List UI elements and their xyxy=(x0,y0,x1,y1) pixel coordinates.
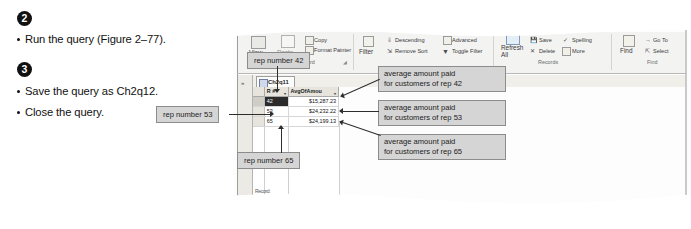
datasheet-grid[interactable]: R # ▾ AvgOfAmou ▾ 42 $15,287.23 xyxy=(253,87,339,127)
filter-button-label[interactable]: Filter xyxy=(359,48,373,55)
arrow-avg-53 xyxy=(339,108,343,114)
clipboard-dialog-launcher-icon[interactable]: ◢ xyxy=(343,60,347,65)
column-header-avg[interactable]: AvgOfAmou ▾ xyxy=(289,87,339,96)
advanced-button-label[interactable]: Advanced xyxy=(452,37,477,43)
remove-sort-icon[interactable]: ⇲ xyxy=(387,48,392,54)
callout-avg-53: average amount paid for customers of rep… xyxy=(378,100,506,126)
select-button-label[interactable]: Select xyxy=(653,48,669,54)
bullet-dot-icon xyxy=(17,111,20,114)
arrow-rep-65 xyxy=(278,125,284,129)
callout-avg-42: average amount paid for customers of rep… xyxy=(378,66,506,92)
toggle-filter-button-label[interactable]: Toggle Filter xyxy=(452,48,482,54)
step3-bullet-1-text: Save the query as Ch2q12. xyxy=(25,85,158,97)
cell-avg[interactable]: $24,199.13 xyxy=(289,117,339,126)
callout-rep-53: rep number 53 xyxy=(156,106,219,123)
cell-rep[interactable]: 42 xyxy=(265,97,289,106)
cell-avg[interactable]: $15,287.23 xyxy=(289,97,339,106)
document-tab-label: Ch2q11 xyxy=(268,79,289,85)
save-record-icon[interactable]: 💾 xyxy=(530,37,537,43)
step3-bullet-2: Close the query. xyxy=(17,106,104,118)
callout-rep-65: rep number 65 xyxy=(237,152,300,169)
bullet-dot-icon xyxy=(17,38,20,41)
save-record-button-label[interactable]: Save xyxy=(539,37,552,43)
remove-sort-button-label[interactable]: Remove Sort xyxy=(395,48,428,54)
nav-pane-expand-icon[interactable]: » xyxy=(241,80,244,86)
select-all-corner[interactable] xyxy=(253,87,265,96)
records-group-label: Records xyxy=(538,59,558,65)
table-row[interactable]: 42 $15,287.23 xyxy=(253,97,339,107)
step2-bullet-1: Run the query (Figure 2–77). xyxy=(17,33,166,45)
select-icon[interactable]: ⇱ xyxy=(645,48,650,54)
chevron-down-icon[interactable]: ▾ xyxy=(334,89,336,98)
find-button-label[interactable]: Find xyxy=(620,47,632,54)
callout-avg-65: average amount paid for customers of rep… xyxy=(378,134,506,160)
step-number-2: 2 xyxy=(17,11,32,26)
arrow-rep-53 xyxy=(270,111,274,117)
column-header-avg-label: AvgOfAmou xyxy=(291,88,322,94)
cell-avg[interactable]: $24,232.22 xyxy=(289,107,339,116)
ribbon-divider-3 xyxy=(611,34,612,70)
ribbon-divider-1 xyxy=(353,34,354,70)
advanced-icon[interactable] xyxy=(443,36,452,45)
step3-bullet-1: Save the query as Ch2q12. xyxy=(17,85,158,97)
row-selector[interactable] xyxy=(253,117,265,126)
delete-button-label[interactable]: Delete xyxy=(539,48,555,54)
callout-rep-42: rep number 42 xyxy=(247,52,310,69)
record-navigator[interactable]: Record: xyxy=(255,188,270,194)
table-row[interactable]: 53 $24,232.22 xyxy=(253,107,339,117)
datasheet-header-row: R # ▾ AvgOfAmou ▾ xyxy=(253,87,339,97)
descending-button-label[interactable]: Descending xyxy=(395,37,425,43)
find-icon[interactable] xyxy=(623,35,635,47)
leader-rep-53 xyxy=(229,114,272,115)
copy-button-label[interactable]: Copy xyxy=(314,37,327,43)
refresh-all-button-label[interactable]: Refresh All xyxy=(501,45,523,58)
step-number-3: 3 xyxy=(17,62,32,77)
cell-rep[interactable]: 65 xyxy=(265,117,289,126)
figure-page: 2 Run the query (Figure 2–77). 3 Save th… xyxy=(0,0,691,229)
chevron-down-icon[interactable]: ▾ xyxy=(284,89,286,98)
paste-icon[interactable] xyxy=(281,35,295,48)
toggle-filter-icon[interactable]: ▼ xyxy=(442,48,449,55)
leader-avg-53 xyxy=(343,111,379,112)
navigation-pane[interactable]: » xyxy=(238,75,253,201)
filter-icon[interactable] xyxy=(363,36,374,47)
delete-icon[interactable]: ✕ xyxy=(530,48,535,54)
row-selector[interactable] xyxy=(253,97,265,106)
window-right-edge xyxy=(685,30,687,202)
leader-rep-65 xyxy=(281,128,282,153)
spelling-button-label[interactable]: Spelling xyxy=(572,37,592,43)
format-painter-button-label[interactable]: Format Painter xyxy=(314,47,351,53)
arrow-rep-42 xyxy=(274,89,280,93)
copy-icon[interactable] xyxy=(305,36,314,45)
table-row[interactable]: 65 $24,199.13 xyxy=(253,117,339,127)
sort-descending-icon[interactable]: ⇩ xyxy=(387,37,392,43)
go-to-icon[interactable]: → xyxy=(645,37,651,43)
ribbon-divider-2 xyxy=(493,34,494,70)
spelling-icon[interactable]: ✓ xyxy=(563,37,568,43)
more-button-label[interactable]: More xyxy=(572,48,585,54)
view-icon[interactable] xyxy=(251,36,266,49)
go-to-button-label[interactable]: Go To xyxy=(653,37,668,43)
step3-bullet-2-text: Close the query. xyxy=(25,106,104,118)
step2-bullet-1-text: Run the query (Figure 2–77). xyxy=(25,33,166,45)
bullet-dot-icon xyxy=(17,90,20,93)
leader-rep-42 xyxy=(277,66,278,90)
more-icon[interactable] xyxy=(562,47,571,56)
find-group-label: Find xyxy=(647,59,658,65)
